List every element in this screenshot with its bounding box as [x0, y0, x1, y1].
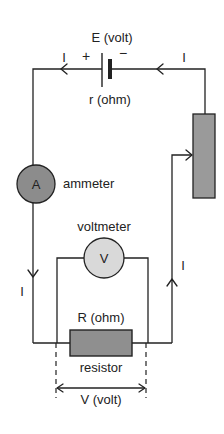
negative-sign: −	[119, 45, 127, 61]
battery-short-plate	[108, 59, 112, 79]
voltmeter-symbol: V	[100, 251, 109, 266]
resistor	[70, 330, 132, 356]
resistance-label: R (ohm)	[78, 310, 125, 325]
emf-label: E (volt)	[91, 30, 132, 45]
current-label-top-left: I	[62, 50, 66, 65]
ammeter-symbol: A	[32, 177, 41, 192]
positive-sign: +	[82, 48, 90, 64]
wire-top-left	[33, 69, 102, 166]
current-label-left: I	[20, 284, 24, 299]
wire-rheostat-slider	[172, 155, 192, 343]
voltmeter-label: voltmeter	[77, 219, 131, 234]
current-label-right: I	[181, 258, 185, 273]
circuit-diagram: E (volt) + − r (ohm) I I I I A ammeter v…	[0, 0, 224, 434]
internal-resistance-label: r (ohm)	[89, 92, 131, 107]
rheostat	[193, 114, 215, 198]
voltage-label: V (volt)	[80, 392, 121, 407]
current-label-top-right: I	[182, 50, 186, 65]
ammeter-label: ammeter	[63, 176, 115, 191]
resistor-label: resistor	[80, 360, 123, 375]
